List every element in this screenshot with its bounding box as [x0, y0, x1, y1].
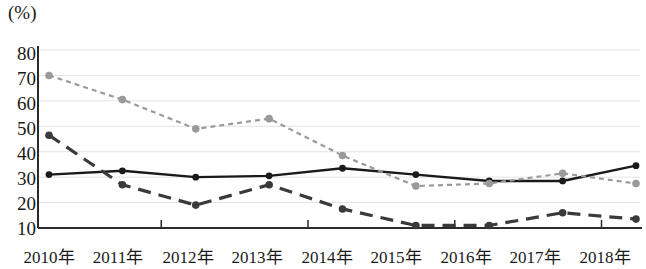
data-point: [265, 115, 273, 123]
series-series-solid: [46, 162, 640, 184]
data-point: [485, 222, 493, 230]
data-point: [45, 131, 53, 139]
data-point: [339, 152, 347, 160]
line-chart: (%) 80 70 60 50 40 30 20 10 2010年 2011年 …: [0, 0, 646, 269]
data-point: [46, 171, 53, 178]
data-point: [632, 180, 640, 188]
data-point: [192, 125, 200, 133]
data-point: [119, 181, 127, 189]
axis-lines: [38, 46, 642, 228]
grid-lines: [38, 50, 640, 203]
data-point: [412, 182, 420, 190]
data-point: [192, 174, 199, 181]
data-point: [412, 222, 420, 230]
data-point: [192, 201, 200, 209]
data-point: [339, 165, 346, 172]
data-point: [119, 96, 127, 104]
x-axis-ticks: [161, 220, 601, 228]
data-point: [412, 171, 419, 178]
data-point: [45, 72, 53, 80]
data-point: [485, 180, 493, 188]
data-point: [559, 178, 566, 185]
data-point: [632, 215, 640, 223]
data-point: [266, 172, 273, 179]
data-point: [559, 209, 567, 217]
data-point: [265, 181, 273, 189]
data-point: [633, 162, 640, 169]
chart-plot-area: [0, 0, 646, 269]
data-point: [559, 170, 567, 178]
data-point: [119, 167, 126, 174]
data-point: [339, 205, 347, 213]
data-series-layer: [45, 72, 640, 230]
